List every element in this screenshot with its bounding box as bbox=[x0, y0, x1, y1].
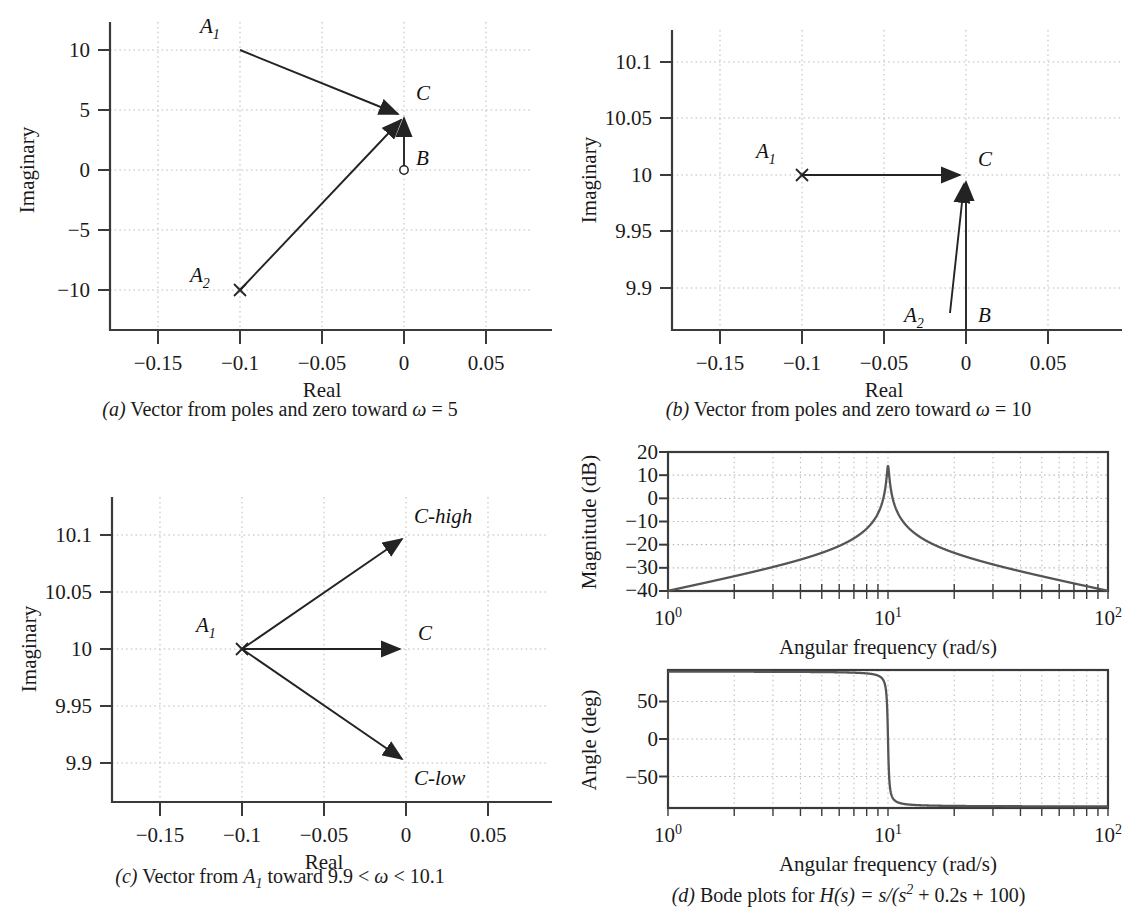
xtick-label: 0.05 bbox=[1030, 351, 1067, 375]
vector-a2-to-c bbox=[950, 184, 964, 313]
y-axis-label: Imaginary bbox=[577, 136, 601, 223]
bode-phase-ticks bbox=[659, 702, 1108, 817]
vector-a1-to-clow bbox=[242, 649, 402, 759]
vector-a1-to-chigh bbox=[242, 539, 402, 649]
point-label-c-low: C-low bbox=[414, 766, 465, 790]
xtick-label: −0.15 bbox=[134, 351, 183, 375]
xtick-label: −0.05 bbox=[300, 823, 349, 847]
panel-b-point-labels: A1 A2 B C bbox=[754, 139, 993, 331]
ytick-label: 5 bbox=[80, 98, 91, 122]
panel-a-pole-zero-diagram: 10 5 0 −5 −10 −0.15 −0.1 −0.05 0 0.05 Re… bbox=[0, 0, 560, 430]
bode-phase-svg: 50 0 −50 100 101 102 Angular frequency (… bbox=[560, 658, 1137, 908]
xtick-label: 0.05 bbox=[470, 823, 507, 847]
ytick-label: 9.95 bbox=[615, 219, 652, 243]
caption-letter: (b) bbox=[666, 398, 689, 420]
caption-omega: ω bbox=[374, 865, 388, 887]
panel-d-caption: (d) Bode plots for H(s) = s/(s2 + 0.2s +… bbox=[560, 882, 1137, 907]
pole-marker-a2 bbox=[234, 284, 246, 296]
caption-letter: (d) bbox=[672, 884, 695, 906]
xtick-label: −0.1 bbox=[223, 823, 261, 847]
panel-b-xtick-labels: −0.15 −0.1 −0.05 0 0.05 bbox=[696, 351, 1067, 375]
panel-a-point-labels: A1 A2 B C bbox=[188, 14, 431, 291]
point-label-a1: A1 bbox=[198, 14, 220, 42]
panel-c-caption: (c) Vector from A1 toward 9.9 < ω < 10.1 bbox=[0, 865, 560, 892]
caption-letter: (a) bbox=[102, 398, 125, 420]
caption-formula-1: (s) = s/(s bbox=[834, 884, 906, 906]
xtick-label: 100 bbox=[654, 822, 682, 847]
xtick-label: −0.05 bbox=[298, 351, 347, 375]
ytick-label: −40 bbox=[625, 578, 658, 602]
bode-phase-ytick-labels: 50 0 −50 bbox=[625, 689, 658, 789]
xtick-label: −0.1 bbox=[783, 351, 821, 375]
panel-b-svg: 10.1 10.05 10 9.95 9.9 −0.15 −0.1 −0.05 … bbox=[560, 0, 1137, 400]
caption-formula-2: + 0.2s + 100) bbox=[913, 884, 1025, 906]
panel-a-svg: 10 5 0 −5 −10 −0.15 −0.1 −0.05 0 0.05 Re… bbox=[0, 0, 560, 400]
panel-a-xtick-labels: −0.15 −0.1 −0.05 0 0.05 bbox=[134, 351, 505, 375]
xtick-label: 102 bbox=[1094, 822, 1122, 847]
vector-a1-to-c bbox=[240, 50, 398, 114]
panel-b-axes bbox=[660, 30, 1122, 344]
point-label-a1: A1 bbox=[754, 139, 776, 167]
ytick-label: 50 bbox=[637, 689, 658, 713]
ytick-label: 10 bbox=[637, 463, 658, 487]
ytick-label: 9.95 bbox=[55, 694, 92, 718]
point-label-a2: A2 bbox=[902, 303, 924, 331]
panel-a-gridlines bbox=[110, 22, 530, 330]
y-axis-label: Imaginary bbox=[15, 126, 39, 213]
panel-b-ytick-labels: 10.1 10.05 10 9.95 9.9 bbox=[605, 50, 652, 300]
panel-b-caption: (b) Vector from poles and zero toward ω … bbox=[560, 398, 1137, 421]
xtick-label: 101 bbox=[874, 605, 902, 630]
ytick-label: −10 bbox=[57, 278, 90, 302]
bode-magnitude-curve bbox=[668, 466, 1108, 591]
panel-c-xtick-labels: −0.15 −0.1 −0.05 0 0.05 bbox=[136, 823, 507, 847]
bode-phase-y-axis-label: Angle (deg) bbox=[577, 690, 601, 791]
point-label-a1: A1 bbox=[194, 613, 216, 641]
ytick-label: −20 bbox=[625, 532, 658, 556]
ytick-label: −50 bbox=[625, 765, 658, 789]
ytick-label: 0 bbox=[648, 727, 659, 751]
vector-a2-to-c bbox=[240, 120, 401, 290]
caption-tail: toward 9.9 < bbox=[262, 865, 374, 887]
ytick-label: 0 bbox=[648, 486, 659, 510]
panel-c-svg: 10.1 10.05 10 9.95 9.9 −0.15 −0.1 −0.05 … bbox=[0, 435, 560, 855]
xtick-label: 102 bbox=[1094, 605, 1122, 630]
ytick-label: 10.05 bbox=[605, 106, 652, 130]
xtick-label: 0.05 bbox=[468, 351, 505, 375]
ytick-label: 10.05 bbox=[45, 580, 92, 604]
panel-b-vectors bbox=[802, 175, 966, 330]
bode-phase-xtick-labels: 100 101 102 bbox=[654, 822, 1122, 847]
ytick-label: −5 bbox=[68, 218, 90, 242]
ytick-label: 10.1 bbox=[615, 50, 652, 74]
ytick-label: 9.9 bbox=[626, 276, 652, 300]
panel-c-point-labels: A1 C-high C C-low bbox=[194, 504, 472, 790]
point-label-c-high: C-high bbox=[414, 504, 472, 528]
ytick-label: 10 bbox=[71, 637, 92, 661]
xtick-label: 100 bbox=[654, 605, 682, 630]
panel-b-pole-zero-diagram: 10.1 10.05 10 9.95 9.9 −0.15 −0.1 −0.05 … bbox=[560, 0, 1137, 430]
ytick-label: 10.1 bbox=[55, 523, 92, 547]
point-label-b: B bbox=[978, 303, 991, 327]
ytick-label: 10 bbox=[69, 38, 90, 62]
panel-a-axes bbox=[98, 22, 552, 344]
caption-omega: ω bbox=[412, 398, 426, 420]
zero-marker-b bbox=[400, 166, 408, 174]
xtick-label: 0 bbox=[961, 351, 972, 375]
xtick-label: −0.15 bbox=[696, 351, 745, 375]
caption-text: Bode plots for bbox=[700, 884, 819, 906]
caption-omega: ω bbox=[976, 398, 990, 420]
caption-letter: (c) bbox=[115, 865, 137, 887]
caption-h: H bbox=[819, 884, 833, 906]
bode-magnitude-svg: 20 10 0 −10 −20 −30 −40 100 101 102 Angu… bbox=[560, 440, 1137, 690]
xtick-label: 0 bbox=[399, 351, 410, 375]
ytick-label: 20 bbox=[637, 440, 658, 464]
point-label-b: B bbox=[416, 146, 429, 170]
xtick-label: 0 bbox=[401, 823, 412, 847]
panel-c-vectors bbox=[242, 539, 402, 759]
panel-a-ytick-labels: 10 5 0 −5 −10 bbox=[57, 38, 90, 302]
panel-c-axes bbox=[100, 497, 552, 816]
ytick-label: 0 bbox=[80, 158, 91, 182]
caption-text: Vector from poles and zero toward bbox=[694, 398, 976, 420]
panel-d-bode-plots: 20 10 0 −10 −20 −30 −40 100 101 102 Angu… bbox=[560, 430, 1137, 923]
ytick-label: 10 bbox=[631, 163, 652, 187]
panel-a-markers bbox=[234, 166, 408, 296]
